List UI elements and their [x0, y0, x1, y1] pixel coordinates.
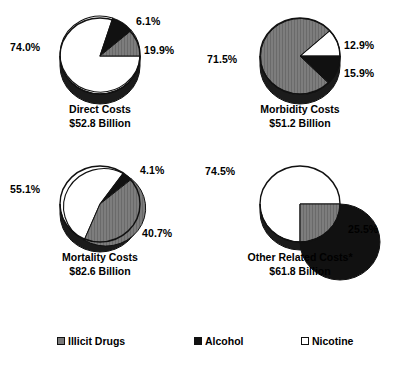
pie-graphic: [58, 12, 142, 104]
pie-graphic: [258, 12, 342, 104]
chart-title: Other Related Costs*: [247, 251, 352, 263]
pie-chart-grid: 74.0% 6.1% 19.9% Direct Costs $52.8 Bill…: [0, 0, 400, 300]
pie-svg: [58, 12, 142, 104]
chart-caption: Direct Costs $52.8 Billion: [0, 102, 200, 130]
pct-label-alcohol: 4.1%: [140, 165, 164, 176]
pie-svg: [258, 160, 342, 252]
pie-chart-other-related-costs: 74.5% 25.5% Other Related Costs* $61.8 B…: [200, 150, 400, 298]
pie-chart-mortality-costs: 55.1% 4.1% 40.7% Mortality Costs $82.6 B…: [0, 150, 200, 298]
legend-item-illicit-drugs: Illicit Drugs: [57, 336, 125, 347]
chart-caption: Morbidity Costs $51.2 Billion: [200, 102, 400, 130]
pct-label-alcohol: 74.5%: [205, 166, 235, 177]
legend-label: Illicit Drugs: [68, 336, 125, 347]
pie-svg: [258, 12, 342, 104]
pct-label-illicit-drugs: 40.7%: [142, 228, 172, 239]
pie-chart-morbidity-costs: 71.5% 12.9% 15.9% Morbidity Costs $51.2 …: [200, 2, 400, 150]
pct-label-nicotine: 55.1%: [10, 184, 40, 195]
legend-label: Alcohol: [205, 336, 244, 347]
chart-legend: Illicit Drugs Alcohol Nicotine: [0, 336, 400, 354]
chart-subtitle: $52.8 Billion: [0, 116, 200, 130]
chart-subtitle: $82.6 Billion: [0, 264, 200, 278]
pie-graphic: [58, 160, 142, 252]
chart-title: Direct Costs: [69, 103, 131, 115]
pct-label-illicit-drugs: 19.9%: [144, 45, 174, 56]
chart-subtitle: $61.8 Billion: [200, 264, 400, 278]
legend-label: Nicotine: [312, 336, 353, 347]
hatched-gray-square-icon: [57, 337, 65, 345]
legend-item-nicotine: Nicotine: [301, 336, 353, 347]
chart-title: Morbidity Costs: [260, 103, 339, 115]
chart-caption: Mortality Costs $82.6 Billion: [0, 250, 200, 278]
pct-label-nicotine: 12.9%: [344, 40, 374, 51]
filled-black-square-icon: [194, 337, 202, 345]
chart-caption: Other Related Costs* $61.8 Billion: [200, 250, 400, 278]
pie-chart-figure: { "chart_data": [ { "type": "pie", "titl…: [0, 0, 400, 368]
pct-label-illicit-drugs: 71.5%: [207, 54, 237, 65]
chart-title: Mortality Costs: [62, 251, 138, 263]
empty-white-square-icon: [301, 337, 309, 345]
pie-chart-direct-costs: 74.0% 6.1% 19.9% Direct Costs $52.8 Bill…: [0, 2, 200, 150]
pct-label-alcohol: 15.9%: [344, 68, 374, 79]
pie-svg: [58, 160, 142, 252]
legend-item-alcohol: Alcohol: [194, 336, 244, 347]
pct-label-alcohol: 6.1%: [136, 16, 160, 27]
chart-subtitle: $51.2 Billion: [200, 116, 400, 130]
pct-label-illicit-drugs: 25.5%: [348, 224, 378, 235]
pie-graphic: [258, 160, 342, 252]
pct-label-nicotine: 74.0%: [10, 42, 40, 53]
